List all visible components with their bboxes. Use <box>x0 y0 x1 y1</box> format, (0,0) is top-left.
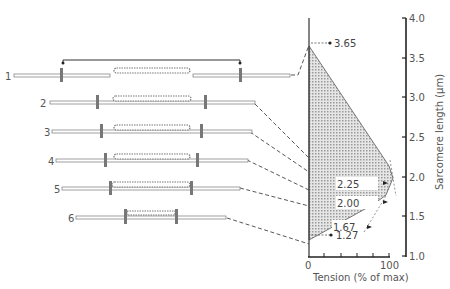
length-tension-diagram: 4.0 3.5 3.0 2.5 2.0 1.5 1.0 Sarcomere le… <box>0 0 450 289</box>
y-tick-1.5: 1.5 <box>409 211 425 222</box>
svg-text:2: 2 <box>40 98 46 109</box>
sarcomere-1: 1 <box>5 60 290 82</box>
sarcomere-6: 6 <box>68 209 226 224</box>
y-axis-label: Sarcomere length (μm) <box>434 74 445 190</box>
svg-text:3.65: 3.65 <box>334 38 356 49</box>
svg-text:3: 3 <box>44 127 50 138</box>
svg-text:2.00: 2.00 <box>337 198 359 209</box>
y-axis: 4.0 3.5 3.0 2.5 2.0 1.5 1.0 Sarcomere le… <box>402 13 445 262</box>
y-tick-3.0: 3.0 <box>409 92 425 103</box>
sarcomere-2: 2 <box>40 95 255 109</box>
tension-area <box>309 46 393 240</box>
x-tick-100: 100 <box>380 260 399 271</box>
x-axis-label: Tension (% of max) <box>312 272 409 283</box>
sarcomere-5: 5 <box>54 181 240 195</box>
sarcomere-4: 4 <box>48 153 248 167</box>
svg-text:1.27: 1.27 <box>336 230 358 241</box>
svg-text:2.25: 2.25 <box>337 179 359 190</box>
svg-text:6: 6 <box>68 213 74 224</box>
x-axis: 0 100 Tension (% of max) <box>305 253 409 283</box>
x-tick-0: 0 <box>305 260 311 271</box>
y-tick-4.0: 4.0 <box>409 13 425 24</box>
svg-text:1: 1 <box>5 71 11 82</box>
annotation-3.65: 3.65 <box>311 38 356 49</box>
y-tick-1.0: 1.0 <box>409 251 425 262</box>
y-tick-3.5: 3.5 <box>409 53 425 64</box>
y-tick-2.5: 2.5 <box>409 132 425 143</box>
sarcomere-3: 3 <box>44 124 252 138</box>
svg-text:4: 4 <box>48 156 54 167</box>
y-tick-2.0: 2.0 <box>409 172 425 183</box>
svg-text:5: 5 <box>54 184 60 195</box>
